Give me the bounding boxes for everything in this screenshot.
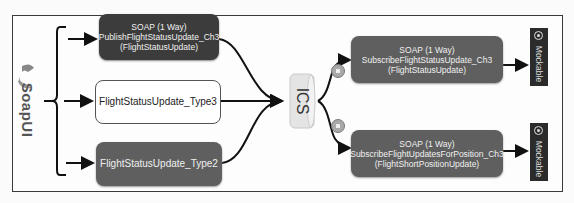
mockable-badge[interactable]: Mockable [530, 123, 548, 181]
client-label: SoapUI [19, 83, 36, 138]
target-node-sub-position[interactable]: SOAP (1 Way) SubscribeFlightUpdatesForPo… [351, 130, 503, 177]
source-node-publish[interactable]: SOAP (1 Way) PublishFlightStatusUpdate_C… [99, 14, 219, 60]
filter-icon[interactable] [331, 119, 345, 133]
filter-icon[interactable] [331, 64, 345, 78]
target-node-sub-status[interactable]: SOAP (1 Way) SubscribeFlightStatusUpdate… [351, 36, 503, 83]
source-node-type3[interactable]: FlightStatusUpdate_Type3 [95, 80, 221, 124]
mockable-badge[interactable]: Mockable [530, 28, 548, 86]
hub-label[interactable]: ICS [293, 88, 311, 115]
mockable-icon [534, 31, 543, 40]
source-node-type2[interactable]: FlightStatusUpdate_Type2 [96, 142, 222, 186]
mockable-icon [534, 126, 543, 135]
